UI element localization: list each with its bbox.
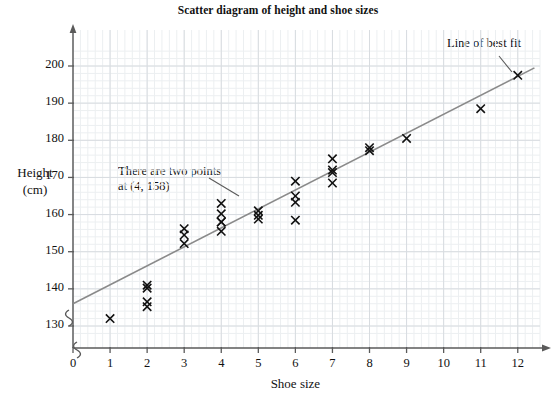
y-tick-label: 140: [24, 280, 64, 295]
x-tick-label: 6: [280, 356, 310, 371]
grid-major: [73, 30, 540, 348]
axis-ticks: [68, 66, 518, 353]
y-tick-label: 130: [24, 317, 64, 332]
x-tick-label: 10: [429, 356, 459, 371]
y-axis-arrow: [70, 24, 77, 33]
y-tick-label: 190: [24, 94, 64, 109]
y-tick-label: 150: [24, 243, 64, 258]
x-tick-label: 11: [466, 356, 496, 371]
x-tick-label: 9: [392, 356, 422, 371]
scatter-chart: Scatter diagram of height and shoe sizes…: [0, 0, 556, 412]
x-tick-label: 8: [355, 356, 385, 371]
x-tick-label: 3: [169, 356, 199, 371]
x-tick-label: 5: [243, 356, 273, 371]
y-tick-label: 200: [24, 57, 64, 72]
x-axis-arrow: [542, 345, 551, 352]
data-points: [106, 71, 522, 323]
x-tick-label: 4: [206, 356, 236, 371]
x-tick-label: 7: [317, 356, 347, 371]
plot-area: [0, 0, 556, 412]
y-tick-label: 170: [24, 168, 64, 183]
x-tick-label: 2: [132, 356, 162, 371]
x-tick-label: 12: [503, 356, 533, 371]
y-tick-label: 180: [24, 131, 64, 146]
x-tick-label: 0: [58, 356, 88, 371]
x-tick-label: 1: [95, 356, 125, 371]
y-axis-break-icon: [66, 310, 73, 326]
grid-minor: [73, 30, 540, 348]
y-tick-label: 160: [24, 206, 64, 221]
